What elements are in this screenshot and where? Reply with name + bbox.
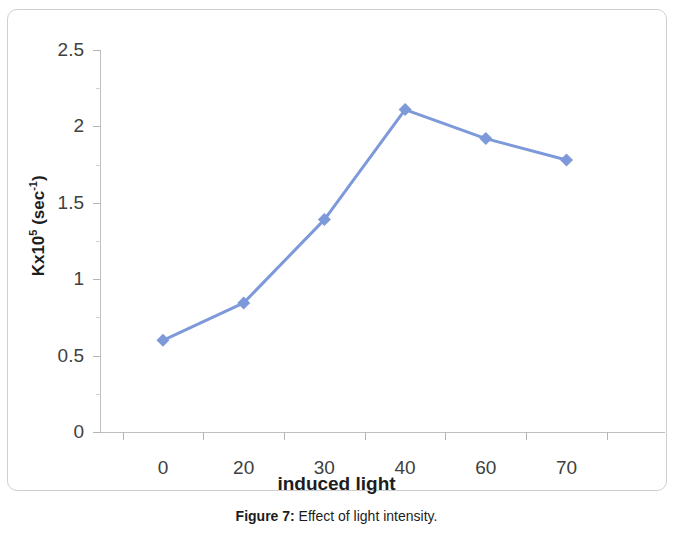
data-point-marker xyxy=(156,334,169,347)
x-axis-title: induced light xyxy=(0,473,673,495)
data-point-marker xyxy=(479,132,492,145)
y-axis-title: Kx105 (sec-1) xyxy=(27,126,49,326)
caption-text: Effect of light intensity. xyxy=(299,508,438,524)
figure-container: 2.521.510.50 02030406070 Kx105 (sec-1) i… xyxy=(0,0,673,539)
series-markers xyxy=(156,103,573,347)
caption-label: Figure 7: xyxy=(236,508,295,524)
series-line xyxy=(163,110,567,341)
data-series-plot xyxy=(0,0,673,482)
data-point-marker xyxy=(560,154,573,167)
figure-caption: Figure 7: Effect of light intensity. xyxy=(0,508,673,524)
